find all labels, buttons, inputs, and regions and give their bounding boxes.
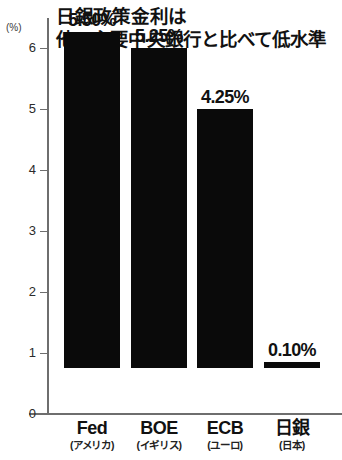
category-name: BOE: [131, 419, 187, 438]
bar-value-label: 0.10%: [268, 341, 316, 360]
category-name: ECB: [197, 419, 253, 438]
category-sublabel: (ユーロ): [197, 440, 253, 451]
bar-value-label: 5.25%: [135, 27, 183, 46]
category-label-日銀: 日銀(日本): [264, 419, 320, 451]
bar-BOE: [131, 48, 187, 368]
category-label-Fed: Fed(アメリカ): [64, 419, 120, 451]
bar-ECB: [197, 109, 253, 368]
category-name: Fed: [64, 419, 120, 438]
category-label-ECB: ECB(ユーロ): [197, 419, 253, 451]
bar-group: 5.25%: [131, 48, 187, 368]
bar-日銀: [264, 362, 320, 368]
bar-group: 4.25%: [197, 109, 253, 368]
category-sublabel: (日本): [264, 440, 320, 451]
plot-area: 5.50%5.25%4.25%0.10%: [0, 0, 342, 414]
bar-value-label: 5.50%: [68, 11, 116, 30]
bar-Fed: [64, 32, 120, 368]
bar-value-label: 4.25%: [201, 88, 249, 107]
category-name: 日銀: [264, 419, 320, 438]
bar-group: 5.50%: [64, 32, 120, 368]
bar-group: 0.10%: [264, 362, 320, 368]
category-label-BOE: BOE(イギリス): [131, 419, 187, 451]
policy-rate-bar-chart: 日銀政策金利は 他の主要中央銀行と比べて低水準 (%) 0123456 5.50…: [0, 0, 342, 460]
category-sublabel: (イギリス): [131, 440, 187, 451]
category-sublabel: (アメリカ): [64, 440, 120, 451]
